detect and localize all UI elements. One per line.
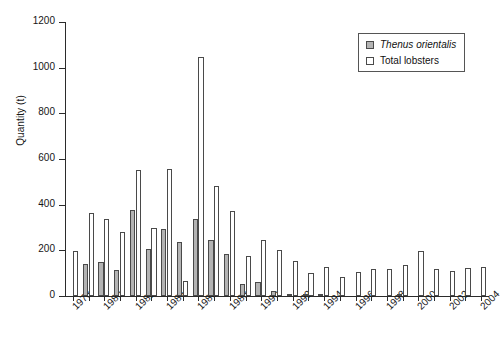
bar-total-lobsters-1991 (277, 250, 282, 296)
y-axis-tick-label: 200 (15, 244, 55, 254)
bar-total-lobsters-1998 (387, 269, 392, 296)
bar-total-lobsters-1994 (324, 267, 329, 296)
x-axis-tick (89, 296, 90, 301)
legend-label-total-lobsters: Total lobsters (380, 55, 439, 66)
legend-item-thenus-orientalis: Thenus orientalis (366, 39, 456, 50)
bar-total-lobsters-1997 (371, 269, 376, 296)
bar-total-lobsters-1982 (136, 170, 141, 296)
bar-thenus-orientalis-1993 (303, 294, 308, 296)
bar-thenus-orientalis-1992 (287, 294, 292, 296)
bar-total-lobsters-2002 (450, 271, 455, 296)
bar-total-lobsters-2000 (418, 251, 423, 296)
chart-figure: Quantity (t) 020040060080010001200 19781… (0, 0, 503, 344)
bar-total-lobsters-1987 (214, 186, 219, 296)
bar-thenus-orientalis-1994 (318, 294, 323, 296)
bar-total-lobsters-1995 (340, 277, 345, 296)
x-axis-tick (465, 296, 466, 301)
bar-total-lobsters-1984 (167, 169, 172, 296)
y-axis-tick-label: 600 (15, 153, 55, 163)
y-axis-tick-label: 800 (15, 107, 55, 117)
bar-total-lobsters-1981 (120, 232, 125, 296)
bar-thenus-orientalis-1981 (114, 270, 119, 296)
bar-thenus-orientalis-1986 (193, 219, 198, 296)
bar-total-lobsters-2003 (465, 268, 470, 296)
bar-total-lobsters-1983 (151, 228, 156, 296)
y-axis-tick-label: 1200 (15, 16, 55, 26)
x-axis-tick (214, 296, 215, 301)
bar-total-lobsters-1996 (356, 272, 361, 296)
bar-thenus-orientalis-1990 (255, 282, 260, 296)
bar-total-lobsters-1986 (198, 57, 203, 296)
bar-thenus-orientalis-1985 (177, 242, 182, 296)
bar-total-lobsters-1999 (403, 265, 408, 296)
x-axis-tick (371, 296, 372, 301)
x-axis-tick (340, 296, 341, 301)
x-axis-tick (403, 296, 404, 301)
bar-thenus-orientalis-1979 (83, 264, 88, 296)
x-axis-tick (246, 296, 247, 301)
y-axis-title: Quantity (t) (15, 76, 26, 166)
bar-total-lobsters-1989 (246, 256, 251, 296)
bar-thenus-orientalis-1983 (146, 249, 151, 296)
y-axis-tick-label: 400 (15, 199, 55, 209)
bar-thenus-orientalis-1987 (208, 240, 213, 296)
bar-thenus-orientalis-1982 (130, 210, 135, 296)
legend-item-total-lobsters: Total lobsters (366, 55, 456, 66)
bar-total-lobsters-1992 (293, 261, 298, 296)
bar-total-lobsters-1978 (73, 251, 78, 296)
chart-legend: Thenus orientalis Total lobsters (358, 33, 465, 72)
bar-total-lobsters-1988 (230, 211, 235, 296)
x-axis-tick (183, 296, 184, 301)
bar-total-lobsters-1980 (104, 219, 109, 296)
x-axis-tick (277, 296, 278, 301)
bar-thenus-orientalis-1988 (224, 254, 229, 296)
bar-thenus-orientalis-1984 (161, 229, 166, 296)
y-axis-tick (59, 296, 65, 297)
bar-total-lobsters-1993 (308, 273, 313, 296)
bar-total-lobsters-1979 (89, 213, 94, 296)
legend-swatch-total-lobsters (366, 57, 374, 65)
y-axis-tick-label: 1000 (15, 62, 55, 72)
bar-thenus-orientalis-1991 (271, 291, 276, 296)
bar-total-lobsters-2004 (481, 267, 486, 296)
legend-swatch-thenus-orientalis (366, 41, 374, 49)
bar-total-lobsters-1985 (183, 281, 188, 296)
bar-thenus-orientalis-1999 (397, 294, 402, 296)
bar-total-lobsters-2001 (434, 269, 439, 296)
x-axis-tick (151, 296, 152, 301)
bar-total-lobsters-1990 (261, 240, 266, 296)
bar-thenus-orientalis-1980 (98, 262, 103, 296)
x-axis-tick (434, 296, 435, 301)
x-axis-tick (308, 296, 309, 301)
bar-thenus-orientalis-1989 (240, 284, 245, 296)
legend-label-thenus-orientalis: Thenus orientalis (380, 39, 456, 50)
y-axis-tick-label: 0 (15, 290, 55, 300)
x-axis-tick (120, 296, 121, 301)
